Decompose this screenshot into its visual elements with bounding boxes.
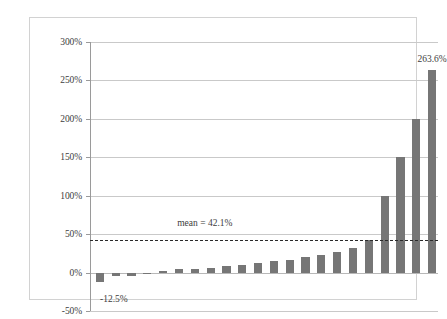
- plot-inner: 300%250%200%150%100%50%0%-50% mean = 42.…: [90, 42, 438, 311]
- bar[interactable]: [365, 240, 373, 273]
- gridline-neg50: [90, 311, 438, 312]
- bar[interactable]: [333, 252, 341, 273]
- plot-area: 300%250%200%150%100%50%0%-50% mean = 42.…: [90, 42, 438, 311]
- y-tick-mark: [86, 311, 90, 312]
- y-axis-label: 50%: [65, 229, 82, 239]
- y-axis-label: 300%: [60, 37, 82, 47]
- bar[interactable]: [112, 273, 120, 277]
- y-axis-label: 0%: [70, 268, 82, 278]
- y-axis-label: 250%: [60, 75, 82, 85]
- min-value-label: -12.5%: [100, 294, 128, 304]
- bar[interactable]: [175, 269, 183, 272]
- bar[interactable]: [317, 255, 325, 273]
- bar[interactable]: [301, 257, 309, 272]
- bar[interactable]: [143, 273, 151, 275]
- bar[interactable]: [349, 248, 357, 273]
- y-axis-label: 200%: [60, 114, 82, 124]
- bar[interactable]: [412, 119, 420, 273]
- max-value-label: 263.6%: [417, 54, 446, 64]
- bar[interactable]: [127, 273, 135, 277]
- bar[interactable]: [428, 70, 436, 273]
- bar[interactable]: [238, 265, 246, 273]
- bar[interactable]: [286, 260, 294, 273]
- bar[interactable]: [381, 196, 389, 273]
- mean-reference-line: [90, 240, 438, 241]
- y-axis-label: 100%: [60, 191, 82, 201]
- mean-line-label: mean = 42.1%: [177, 218, 232, 228]
- bars-group: [90, 42, 438, 311]
- bar[interactable]: [207, 268, 215, 273]
- y-axis-label: 150%: [60, 152, 82, 162]
- bar[interactable]: [191, 269, 199, 273]
- y-axis-label: -50%: [62, 306, 82, 316]
- chart-frame: 300%250%200%150%100%50%0%-50% mean = 42.…: [29, 17, 417, 300]
- bar[interactable]: [396, 157, 404, 272]
- bar[interactable]: [222, 266, 230, 272]
- bar[interactable]: [254, 263, 262, 273]
- bar[interactable]: [96, 273, 104, 283]
- bar[interactable]: [270, 261, 278, 273]
- bar[interactable]: [159, 271, 167, 273]
